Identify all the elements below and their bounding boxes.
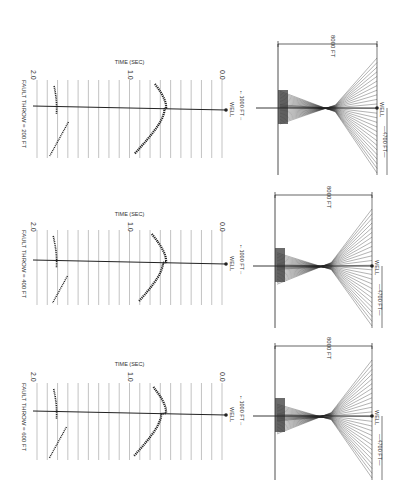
- ray-path: [331, 237, 372, 264]
- time-section: 2.01.00.0TIME (SEC)FAULT THROW = 200 FTW…: [21, 59, 245, 158]
- ray-path: [331, 209, 372, 263]
- ray-well-label: WELL: [379, 102, 385, 117]
- reflection-event-deep-lower: [49, 427, 66, 458]
- ray-path: [331, 388, 372, 414]
- reflection-event-deep-upper: [53, 236, 56, 268]
- time-section: 2.01.00.0TIME (SEC)FAULT THROW = 400 FTW…: [21, 211, 245, 305]
- fault-throw-label: FAULT THROW = 400 FT: [21, 230, 27, 299]
- ray-path: [335, 110, 377, 141]
- panel-throw-200: 2.01.00.0TIME (SEC)FAULT THROW = 200 FTW…: [21, 35, 388, 175]
- ray-path: [335, 111, 377, 155]
- well-label: WELL: [229, 256, 235, 271]
- depth-dimension-label: 8000 FT: [326, 186, 332, 209]
- time-tick-label: 2.0: [30, 222, 37, 232]
- time-tick-label: 1.0: [127, 70, 134, 80]
- reflection-event-deep-lower: [53, 276, 68, 303]
- well-marker-icon: [375, 106, 379, 110]
- ray-path: [335, 58, 377, 105]
- offset-scale-label: ←1000 FT→: [239, 244, 245, 275]
- ray-path: [331, 266, 372, 270]
- well-label: WELL: [229, 102, 235, 117]
- offset-scale-label: ←1000 FT→: [239, 395, 245, 426]
- well-marker-icon: [224, 413, 228, 417]
- reflection-event-deep-upper: [54, 86, 57, 114]
- ray-path: [331, 218, 372, 263]
- time-tick-label: 2.0: [30, 372, 37, 382]
- ray-path: [331, 268, 372, 294]
- time-tick-label: 1.0: [127, 372, 134, 382]
- time-tick-label: 1.0: [127, 222, 134, 232]
- reflection-event-deep-upper: [54, 389, 57, 419]
- time-tick-label: 0.0: [219, 372, 226, 382]
- ray-diagram: 8000 FTWELL—4700 FT—: [253, 337, 383, 480]
- ray-path: [335, 81, 377, 106]
- well-label: WELL: [229, 407, 235, 422]
- time-axis-title: TIME (SEC): [115, 361, 145, 367]
- ray-path: [335, 67, 377, 105]
- ray-diagram: 8000 FTWELL—4700 FT—: [253, 186, 383, 328]
- time-section: 2.01.00.0TIME (SEC)FAULT THROW = 600 FTW…: [21, 361, 245, 460]
- depth-dimension-label: 8000 FT: [326, 337, 332, 360]
- time-axis-title: TIME (SEC): [115, 211, 145, 217]
- ray-path: [335, 111, 377, 159]
- ray-diagram: 8000 FTWELL—4700 FT—: [256, 35, 388, 175]
- ray-path: [331, 268, 372, 298]
- ray-path: [331, 365, 372, 413]
- ray-path: [335, 76, 377, 106]
- ray-path: [331, 228, 372, 264]
- well-marker-icon: [224, 262, 228, 266]
- reflection-event-shallow: [139, 234, 166, 301]
- ray-path: [331, 369, 372, 413]
- ray-path: [331, 418, 372, 445]
- well-marker-icon: [224, 108, 228, 112]
- fault-throw-label: FAULT THROW = 600 FT: [21, 383, 27, 452]
- depth-dimension-label: 8000 FT: [330, 35, 336, 58]
- ray-path: [335, 112, 377, 173]
- panel-throw-400: 2.01.00.0TIME (SEC)FAULT THROW = 400 FTW…: [21, 186, 383, 328]
- fault-throw-label: FAULT THROW = 200 FT: [21, 80, 27, 149]
- ray-offset-label: —4700 FT—: [382, 126, 388, 158]
- ray-path: [331, 418, 372, 450]
- fault-block: [275, 398, 285, 432]
- ray-path: [331, 360, 372, 413]
- reflection-event-deep-lower: [50, 122, 69, 156]
- time-tick-label: 0.0: [219, 222, 226, 232]
- ray-path: [331, 419, 372, 473]
- panel-throw-600: 2.01.00.0TIME (SEC)FAULT THROW = 600 FTW…: [21, 337, 383, 480]
- ray-path: [335, 111, 377, 163]
- ray-path: [335, 63, 377, 106]
- ray-path: [331, 269, 372, 312]
- time-tick-label: 2.0: [30, 70, 37, 80]
- ray-path: [331, 419, 372, 468]
- ray-well-label: WELL: [374, 410, 380, 425]
- ray-path: [331, 402, 372, 415]
- well-marker-icon: [370, 414, 374, 418]
- ray-path: [335, 110, 377, 137]
- ray-offset-label: —4700 FT—: [377, 434, 383, 466]
- ray-path: [331, 419, 372, 464]
- ray-well-label: WELL: [374, 260, 380, 275]
- ray-path: [331, 269, 372, 317]
- ray-path: [331, 268, 372, 307]
- ray-path: [331, 384, 372, 414]
- time-axis-title: TIME (SEC): [115, 59, 145, 65]
- well-marker-icon: [370, 264, 374, 268]
- seismic-figure: 2.01.00.0TIME (SEC)FAULT THROW = 200 FTW…: [0, 0, 396, 495]
- fault-block: [278, 90, 288, 124]
- time-tick-label: 0.0: [219, 70, 226, 80]
- ray-path: [335, 95, 377, 107]
- ray-offset-label: —4700 FT—: [377, 284, 383, 316]
- ray-path: [331, 269, 372, 321]
- ray-path: [331, 232, 372, 264]
- offset-scale-label: ←1000 FT→: [239, 90, 245, 121]
- ray-path: [277, 253, 331, 270]
- fault-block: [275, 248, 285, 282]
- ray-path: [331, 374, 372, 413]
